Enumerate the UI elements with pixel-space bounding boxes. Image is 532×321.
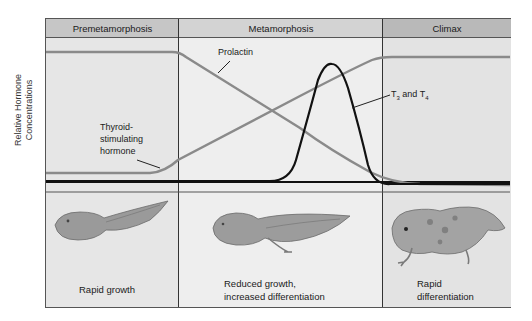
tsh-label-line1: Thyroid-: [100, 121, 143, 133]
t3-t4-leader: [352, 95, 390, 108]
caption-climax-line2: differentiation: [417, 290, 474, 303]
tadpole-hindlimbs-illustration: [213, 213, 350, 252]
tadpole-early-illustration: [55, 201, 168, 240]
caption-metamorphosis-line2: increased differentiation: [224, 290, 325, 303]
prolactin-leader: [218, 61, 230, 73]
caption-premetamorphosis: Rapid growth: [79, 283, 135, 296]
froglet-illustration: [392, 207, 505, 266]
t3-t4-label: T3 and T4: [391, 88, 429, 104]
prolactin-label: Prolactin: [218, 46, 253, 58]
hormone-plot: [0, 0, 532, 321]
tsh-label-line2: stimulating: [100, 133, 143, 145]
tsh-label-line3: hormone: [100, 145, 143, 157]
tsh-label: Thyroid- stimulating hormone: [100, 121, 143, 157]
caption-climax: Rapid differentiation: [417, 277, 474, 303]
caption-metamorphosis: Reduced growth, increased differentiatio…: [224, 277, 325, 303]
caption-metamorphosis-line1: Reduced growth,: [224, 277, 325, 290]
caption-premetamorphosis-line1: Rapid growth: [79, 283, 135, 296]
prolactin-curve: [46, 52, 510, 185]
caption-climax-line1: Rapid: [417, 277, 474, 290]
tsh-leader: [137, 160, 160, 168]
